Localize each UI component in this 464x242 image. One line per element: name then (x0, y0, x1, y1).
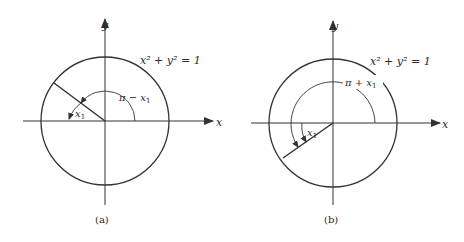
panel-b: x y x² + y² = 1 π + x1 x1 (b) (251, 20, 449, 225)
figure-canvas: x y x² + y² = 1 π − x1 x1 (a) x y x² + y… (0, 0, 464, 242)
caption-b: (b) (324, 214, 338, 225)
outer-angle-label-a: π − x1 (118, 92, 150, 105)
equation-a: x² + y² = 1 (140, 54, 201, 67)
inner-angle-label-b: x1 (307, 127, 317, 140)
y-axis-label-b: y (331, 20, 339, 33)
inner-angle-label-a: x1 (75, 108, 85, 121)
equation-b: x² + y² = 1 (370, 55, 431, 68)
panel-a: x y x² + y² = 1 π − x1 x1 (a) (23, 19, 223, 225)
y-axis-label-a: y (101, 19, 109, 32)
x-axis-label-a: x (216, 116, 223, 129)
x-axis-label-b: x (442, 118, 449, 131)
angle-arc-x1-b (302, 123, 306, 142)
caption-a: (a) (95, 214, 109, 225)
